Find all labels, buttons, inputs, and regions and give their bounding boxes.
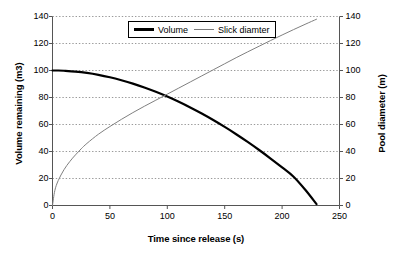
x-tick-label: 200 xyxy=(267,211,297,221)
y-left-tick-label: 80 xyxy=(23,92,49,102)
y-left-tick-label: 0 xyxy=(23,200,49,210)
legend-item-slick-diameter: Slick diamter xyxy=(194,25,270,35)
legend-line-swatch-volume xyxy=(134,28,154,30)
y-left-tick-label: 60 xyxy=(23,119,49,129)
y-left-tick-label: 120 xyxy=(23,38,49,48)
legend-line-swatch-slick-diameter xyxy=(194,29,214,30)
y-right-tick-label: 20 xyxy=(346,173,372,183)
y-left-tick-label: 140 xyxy=(23,11,49,21)
y-right-tick-label: 100 xyxy=(346,65,372,75)
gridlines xyxy=(53,17,340,179)
data-series xyxy=(53,19,317,205)
y-axis-right-title: Pool diameter (m) xyxy=(376,49,387,179)
x-tick-label: 250 xyxy=(325,211,355,221)
chart-figure: 0204060801001201400204060801001201400501… xyxy=(0,0,394,256)
y-right-tick-label: 60 xyxy=(346,119,372,129)
y-left-tick-label: 20 xyxy=(23,173,49,183)
x-tick-label: 50 xyxy=(95,211,125,221)
y-axis-left-title: Volume remaining (m3) xyxy=(13,49,24,179)
y-right-tick-label: 80 xyxy=(346,92,372,102)
legend-label-slick-diameter: Slick diamter xyxy=(218,25,270,35)
x-axis-title: Time since release (s) xyxy=(52,233,340,244)
legend-item-volume: Volume xyxy=(134,25,188,35)
y-right-tick-label: 140 xyxy=(346,11,372,21)
x-tick-label: 100 xyxy=(152,211,182,221)
tick-marks xyxy=(49,17,343,210)
y-right-tick-label: 40 xyxy=(346,146,372,156)
x-tick-label: 0 xyxy=(38,211,68,221)
y-right-tick-label: 0 xyxy=(346,200,372,210)
legend-label-volume: Volume xyxy=(158,25,188,35)
y-left-tick-label: 40 xyxy=(23,146,49,156)
y-right-tick-label: 120 xyxy=(346,38,372,48)
y-left-tick-label: 100 xyxy=(23,65,49,75)
chart-legend: Volume Slick diamter xyxy=(128,21,276,38)
x-tick-label: 150 xyxy=(210,211,240,221)
